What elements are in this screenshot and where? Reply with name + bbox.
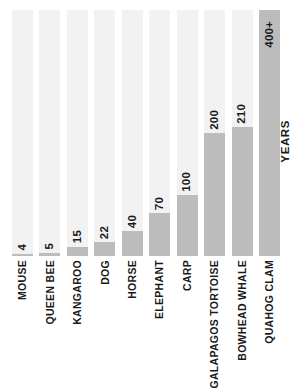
category-label-text: CARP (182, 260, 193, 291)
axis-title-years-text: YEARS (280, 120, 292, 163)
category-label: GALAPAGOS TORTOISE (204, 260, 225, 389)
bar-track (67, 10, 88, 256)
category-label: KANGAROO (67, 260, 88, 389)
bar-slot[interactable]: 22 (94, 10, 115, 256)
bar-slot[interactable]: 70 (149, 10, 170, 256)
bar-slot[interactable]: 5 (39, 10, 60, 256)
bar-slot[interactable]: 200 (204, 10, 225, 256)
bar-fill (259, 10, 280, 256)
chart-plot-area: 4515224070100200210400+ (12, 10, 280, 256)
bar-track (39, 10, 60, 256)
bar-fill (39, 253, 60, 256)
bar-slot[interactable]: 15 (67, 10, 88, 256)
category-label: MOUSE (12, 260, 33, 389)
category-label: QUEEN BEE (39, 260, 60, 389)
category-label: ELEPHANT (149, 260, 170, 389)
axis-title-years: YEARS (280, 120, 292, 163)
category-label: HORSE (122, 260, 143, 389)
category-label-text: KANGAROO (72, 260, 83, 325)
lifespan-bar-chart: 4515224070100200210400+ MOUSEQUEEN BEEKA… (0, 0, 292, 389)
bar-fill (149, 213, 170, 256)
category-label-text: QUAHOG CLAM (264, 260, 275, 344)
category-label: DOG (94, 260, 115, 389)
category-label-text: HORSE (127, 260, 138, 299)
category-label: BOWHEAD WHALE (232, 260, 253, 389)
bar-slot[interactable]: 100 (177, 10, 198, 256)
bar-fill (122, 231, 143, 256)
chart-category-labels: MOUSEQUEEN BEEKANGAROODOGHORSEELEPHANTCA… (12, 260, 280, 389)
bar-fill (12, 254, 33, 256)
category-label-text: QUEEN BEE (45, 260, 56, 325)
bar-fill (67, 247, 88, 256)
bar-fill (94, 242, 115, 256)
category-label: CARP (177, 260, 198, 389)
bar-slot[interactable]: 40 (122, 10, 143, 256)
category-label: QUAHOG CLAM (259, 260, 280, 389)
bar-slot[interactable]: 400+ (259, 10, 280, 256)
category-label-text: ELEPHANT (154, 260, 165, 319)
bar-track (12, 10, 33, 256)
bar-track (122, 10, 143, 256)
bar-track (94, 10, 115, 256)
category-label-text: MOUSE (17, 260, 28, 300)
bar-slot[interactable]: 4 (12, 10, 33, 256)
category-label-text: BOWHEAD WHALE (237, 260, 248, 361)
category-label-text: DOG (100, 260, 111, 285)
bar-fill (204, 133, 225, 256)
category-label-text: GALAPAGOS TORTOISE (209, 260, 220, 389)
bar-fill (177, 195, 198, 257)
bar-slot[interactable]: 210 (232, 10, 253, 256)
bar-fill (232, 127, 253, 256)
